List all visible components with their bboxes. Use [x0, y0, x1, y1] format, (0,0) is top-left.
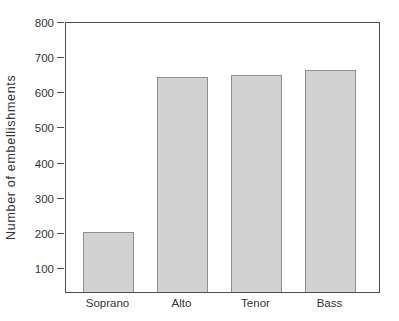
- bar-alto: [157, 77, 208, 292]
- bar-chart-figure: Number of embellishments 800700600500400…: [0, 0, 399, 321]
- x-category-label-soprano: Soprano: [68, 296, 148, 310]
- y-tick-mark-800: [57, 22, 64, 23]
- plot-area: [65, 22, 380, 293]
- y-tick-label-800: 800: [18, 16, 54, 30]
- y-tick-mark-100: [57, 268, 64, 269]
- bar-soprano: [83, 232, 134, 292]
- y-tick-label-400: 400: [18, 157, 54, 171]
- x-category-label-bass: Bass: [290, 296, 370, 310]
- x-category-label-tenor: Tenor: [216, 296, 296, 310]
- y-tick-label-300: 300: [18, 192, 54, 206]
- y-tick-mark-600: [57, 92, 64, 93]
- y-tick-label-100: 100: [18, 262, 54, 276]
- y-tick-mark-200: [57, 233, 64, 234]
- x-category-label-alto: Alto: [142, 296, 222, 310]
- y-tick-mark-400: [57, 163, 64, 164]
- y-tick-label-700: 700: [18, 51, 54, 65]
- y-tick-mark-700: [57, 57, 64, 58]
- y-tick-label-500: 500: [18, 121, 54, 135]
- bar-bass: [305, 70, 356, 292]
- y-tick-label-600: 600: [18, 86, 54, 100]
- bar-tenor: [231, 75, 282, 292]
- y-tick-mark-500: [57, 127, 64, 128]
- y-tick-label-200: 200: [18, 227, 54, 241]
- y-tick-mark-300: [57, 198, 64, 199]
